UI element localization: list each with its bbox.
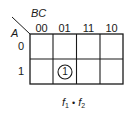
cell-r0-c3 [105,40,119,54]
caption-and-operator: • [72,98,75,108]
row-header-1: 1 [16,66,26,77]
cell-r0-c0 [35,40,49,54]
caption-f1-subscript: 1 [65,102,69,109]
function-caption: f1•f2 [62,96,85,112]
caption-f2-subscript: 2 [81,102,85,109]
cell-r1-c3 [105,65,119,79]
cell-r0-c1 [58,40,72,54]
cell-r0-c2 [82,40,96,54]
column-variable-label: BC [31,8,46,19]
cell-r1-c0 [35,65,49,79]
row-header-0: 0 [16,41,26,52]
column-header-00: 00 [30,23,53,34]
column-header-10: 10 [100,23,123,34]
cell-r1-c1-circled: 1 [58,65,72,79]
row-variable-label: A [11,28,18,39]
column-header-01: 01 [53,23,76,34]
column-header-11: 11 [77,23,100,34]
cell-r1-c2 [82,65,96,79]
